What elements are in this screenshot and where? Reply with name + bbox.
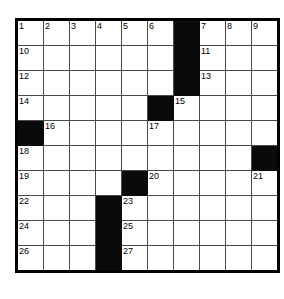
crossword-cell[interactable] [174,221,200,246]
crossword-cell[interactable]: 26 [17,246,44,272]
crossword-cell[interactable]: 24 [17,221,44,246]
crossword-cell[interactable]: 18 [17,146,44,171]
crossword-cell[interactable] [70,121,96,146]
crossword-cell[interactable]: 9 [252,20,279,46]
crossword-cell[interactable] [70,71,96,96]
crossword-cell[interactable] [226,71,252,96]
crossword-cell[interactable] [122,46,148,71]
crossword-row: 2627 [17,246,279,272]
crossword-cell[interactable] [252,71,279,96]
crossword-cell[interactable] [70,246,96,272]
crossword-cell[interactable] [252,246,279,272]
crossword-cell[interactable] [96,96,122,121]
crossword-cell[interactable]: 27 [122,246,148,272]
crossword-cell[interactable] [96,146,122,171]
crossword-cell[interactable] [148,246,174,272]
crossword-cell[interactable] [200,196,226,221]
crossword-row: 1617 [17,121,279,146]
crossword-cell[interactable]: 17 [148,121,174,146]
crossword-cell[interactable]: 19 [17,171,44,196]
crossword-cell[interactable] [122,96,148,121]
crossword-cell[interactable] [44,146,70,171]
crossword-cell[interactable] [44,246,70,272]
crossword-cell[interactable] [70,146,96,171]
crossword-cell[interactable] [226,146,252,171]
crossword-cell[interactable] [252,46,279,71]
cell-number: 14 [19,96,29,106]
cell-number: 2 [45,21,50,31]
crossword-cell[interactable]: 13 [200,71,226,96]
crossword-cell[interactable] [226,171,252,196]
crossword-cell[interactable] [252,221,279,246]
crossword-cell[interactable]: 14 [17,96,44,121]
crossword-cell[interactable]: 1 [17,20,44,46]
crossword-cell[interactable] [96,171,122,196]
crossword-cell[interactable]: 7 [200,20,226,46]
crossword-cell[interactable] [226,121,252,146]
crossword-cell[interactable]: 12 [17,71,44,96]
crossword-cell[interactable]: 3 [70,20,96,46]
crossword-cell[interactable] [252,121,279,146]
crossword-cell[interactable] [44,96,70,121]
crossword-cell[interactable] [174,171,200,196]
crossword-cell[interactable] [122,121,148,146]
crossword-cell[interactable] [148,196,174,221]
crossword-cell[interactable]: 8 [226,20,252,46]
crossword-cell[interactable] [70,171,96,196]
crossword-cell[interactable] [200,121,226,146]
crossword-cell[interactable]: 4 [96,20,122,46]
crossword-cell[interactable]: 25 [122,221,148,246]
crossword-cell[interactable] [226,246,252,272]
crossword-cell[interactable] [148,146,174,171]
crossword-cell[interactable] [226,196,252,221]
crossword-cell[interactable] [174,196,200,221]
crossword-cell[interactable] [44,46,70,71]
crossword-cell[interactable] [44,171,70,196]
crossword-cell[interactable] [252,196,279,221]
crossword-cell[interactable] [70,221,96,246]
crossword-cell[interactable] [96,71,122,96]
crossword-cell[interactable] [122,71,148,96]
crossword-cell[interactable]: 5 [122,20,148,46]
crossword-cell[interactable] [70,196,96,221]
crossword-cell[interactable] [44,71,70,96]
crossword-block-cell [174,20,200,46]
cell-number: 15 [175,96,185,106]
crossword-cell[interactable] [200,96,226,121]
crossword-cell[interactable] [174,146,200,171]
crossword-cell[interactable] [252,96,279,121]
crossword-cell[interactable] [200,221,226,246]
crossword-row: 123456789 [17,20,279,46]
crossword-cell[interactable] [226,46,252,71]
crossword-cell[interactable] [148,46,174,71]
crossword-row: 2425 [17,221,279,246]
crossword-cell[interactable]: 20 [148,171,174,196]
crossword-cell[interactable] [44,196,70,221]
crossword-cell[interactable] [148,71,174,96]
crossword-cell[interactable] [200,171,226,196]
crossword-cell[interactable]: 16 [44,121,70,146]
crossword-cell[interactable]: 23 [122,196,148,221]
crossword-cell[interactable] [70,96,96,121]
crossword-cell[interactable]: 6 [148,20,174,46]
crossword-cell[interactable]: 2 [44,20,70,46]
crossword-cell[interactable] [200,246,226,272]
crossword-cell[interactable] [122,146,148,171]
crossword-cell[interactable] [200,146,226,171]
crossword-cell[interactable] [70,46,96,71]
crossword-cell[interactable] [174,246,200,272]
crossword-cell[interactable] [96,121,122,146]
crossword-cell[interactable]: 21 [252,171,279,196]
cell-number: 12 [19,71,29,81]
crossword-cell[interactable] [226,221,252,246]
crossword-cell[interactable] [148,221,174,246]
crossword-cell[interactable]: 22 [17,196,44,221]
crossword-cell[interactable]: 15 [174,96,200,121]
crossword-cell[interactable]: 10 [17,46,44,71]
crossword-cell[interactable]: 11 [200,46,226,71]
crossword-cell[interactable] [226,96,252,121]
crossword-cell[interactable] [44,221,70,246]
crossword-cell[interactable] [174,121,200,146]
cell-number: 27 [123,246,133,256]
crossword-cell[interactable] [96,46,122,71]
